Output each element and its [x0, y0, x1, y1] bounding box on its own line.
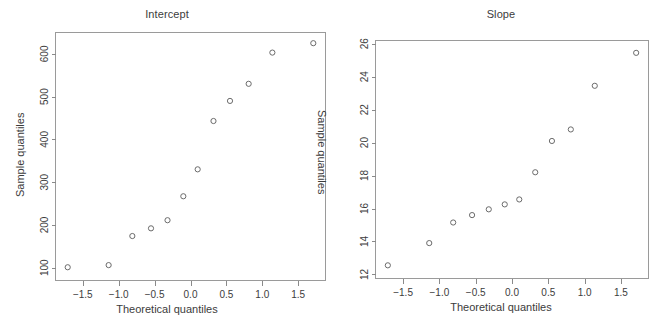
- data-point: [195, 167, 200, 172]
- x-tick-label: 0.0: [184, 289, 198, 300]
- data-point: [533, 170, 538, 175]
- data-point: [592, 83, 597, 88]
- y-tick-label: 26: [359, 38, 370, 50]
- x-tick-label: −1.5: [393, 287, 413, 298]
- x-tick-label: −0.5: [466, 287, 486, 298]
- plot-frame-intercept: [56, 33, 326, 281]
- y-tick-label: 200: [39, 216, 50, 233]
- plot-frame-slope: [376, 41, 649, 279]
- y-tick-label: 18: [359, 170, 370, 182]
- data-point: [148, 226, 153, 231]
- x-tick-label: 1.0: [578, 287, 592, 298]
- data-point: [130, 233, 135, 238]
- data-point: [106, 263, 111, 268]
- y-tick-label: 24: [359, 71, 370, 83]
- data-point: [451, 220, 456, 225]
- y-tick-label: 600: [39, 45, 50, 62]
- data-points-slope: [385, 50, 639, 268]
- data-point: [568, 127, 573, 132]
- data-point: [427, 240, 432, 245]
- x-tick-label: −1.0: [109, 289, 129, 300]
- data-point: [211, 118, 216, 123]
- data-point: [517, 197, 522, 202]
- x-axis-ticks-intercept: −1.5−1.0−0.50.00.51.01.5: [73, 281, 306, 300]
- data-point: [385, 263, 390, 268]
- y-axis-label-intercept: Sample quantiles: [14, 113, 26, 197]
- data-point: [227, 98, 232, 103]
- y-axis-label-inner-intercept: Sample quantiles: [316, 110, 328, 194]
- data-point: [634, 50, 639, 55]
- data-point: [486, 207, 491, 212]
- x-axis-ticks-slope: −1.5−1.0−0.50.00.51.01.5: [393, 279, 628, 298]
- x-tick-label: 0.5: [541, 287, 555, 298]
- data-point: [165, 218, 170, 223]
- x-tick-label: −0.5: [145, 289, 165, 300]
- data-point: [311, 41, 316, 46]
- data-point: [502, 202, 507, 207]
- y-tick-label: 300: [39, 173, 50, 190]
- y-tick-label: 14: [359, 235, 370, 247]
- y-tick-label: 400: [39, 131, 50, 148]
- x-axis-label-intercept: Theoretical quantiles: [0, 303, 334, 315]
- x-tick-label: −1.0: [430, 287, 450, 298]
- x-tick-label: 1.0: [255, 289, 269, 300]
- y-tick-label: 16: [359, 203, 370, 215]
- panel-intercept: Intercept 100200300400500600 −1.5−1.0−0.…: [0, 0, 334, 325]
- y-tick-label: 12: [359, 268, 370, 280]
- x-tick-label: 1.5: [291, 289, 305, 300]
- plot-area-slope: 1214161820222426 −1.5−1.0−0.50.00.51.01.…: [334, 0, 668, 325]
- y-tick-label: 22: [359, 104, 370, 116]
- data-point: [65, 265, 70, 270]
- data-point: [270, 50, 275, 55]
- panel-slope: Slope 1214161820222426 −1.5−1.0−0.50.00.…: [334, 0, 668, 325]
- x-tick-label: 1.5: [614, 287, 628, 298]
- x-tick-label: −1.5: [73, 289, 93, 300]
- y-tick-label: 500: [39, 88, 50, 105]
- y-tick-label: 100: [39, 259, 50, 276]
- data-points-intercept: [65, 41, 316, 270]
- y-axis-ticks-slope: 1214161820222426: [359, 38, 376, 280]
- data-point: [549, 138, 554, 143]
- x-tick-label: 0.5: [219, 289, 233, 300]
- y-tick-label: 20: [359, 137, 370, 149]
- x-axis-label-slope: Theoretical quantiles: [334, 301, 668, 313]
- plot-area-intercept: 100200300400500600 −1.5−1.0−0.50.00.51.0…: [0, 0, 334, 325]
- data-point: [181, 194, 186, 199]
- data-point: [246, 81, 251, 86]
- data-point: [469, 212, 474, 217]
- x-tick-label: 0.0: [505, 287, 519, 298]
- y-axis-ticks-intercept: 100200300400500600: [39, 45, 56, 276]
